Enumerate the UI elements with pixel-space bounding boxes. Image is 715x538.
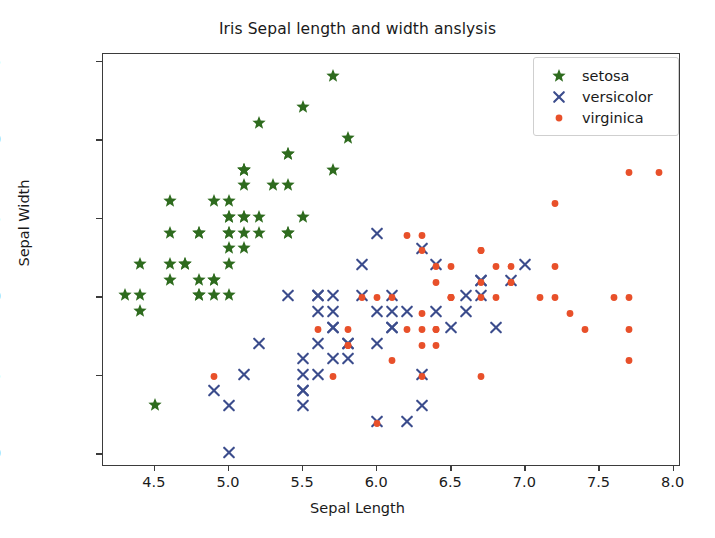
data-point-versicolor xyxy=(370,414,384,433)
y-tick-label: 3.5 xyxy=(0,210,1,226)
data-point-virginica xyxy=(565,304,575,323)
x-tick-label: 7.0 xyxy=(513,474,536,490)
data-point-virginica xyxy=(624,288,634,307)
data-point-versicolor xyxy=(415,398,429,417)
data-point-setosa xyxy=(177,256,193,276)
data-point-virginica xyxy=(535,288,545,307)
legend-entry-setosa[interactable]: setosa xyxy=(534,65,678,86)
data-point-virginica xyxy=(343,335,353,354)
data-point-setosa xyxy=(280,146,296,166)
x-axis-label: Sepal Length xyxy=(0,500,715,516)
data-point-virginica xyxy=(387,351,397,370)
data-point-versicolor xyxy=(385,288,399,307)
y-tick-label: 2.5 xyxy=(0,367,1,383)
data-point-virginica xyxy=(313,319,323,338)
data-point-virginica xyxy=(550,288,560,307)
data-point-virginica xyxy=(387,288,397,307)
data-point-versicolor xyxy=(385,304,399,323)
data-point-virginica xyxy=(446,288,456,307)
legend-entry-versicolor[interactable]: versicolor xyxy=(534,86,678,107)
data-point-virginica xyxy=(357,288,367,307)
data-point-versicolor xyxy=(400,304,414,323)
y-tick-mark xyxy=(96,296,102,297)
x-tick-mark xyxy=(376,466,377,471)
legend: setosaversicolorvirginica xyxy=(533,57,679,136)
data-point-virginica xyxy=(446,288,456,307)
legend-entry-virginica[interactable]: virginica xyxy=(534,107,678,128)
legend-label: virginica xyxy=(582,110,644,126)
data-point-virginica xyxy=(417,319,427,338)
data-point-virginica xyxy=(431,319,441,338)
data-point-setosa xyxy=(221,225,237,245)
data-point-setosa xyxy=(236,209,252,229)
data-point-versicolor xyxy=(415,366,429,385)
x-tick-label: 7.5 xyxy=(587,474,610,490)
data-point-setosa xyxy=(117,287,133,307)
data-point-virginica xyxy=(417,304,427,323)
data-point-virginica xyxy=(402,319,412,338)
data-point-setosa xyxy=(206,287,222,307)
data-point-virginica xyxy=(343,319,353,338)
data-point-versicolor xyxy=(326,351,340,370)
data-point-versicolor xyxy=(429,257,443,276)
data-point-virginica xyxy=(372,288,382,307)
y-axis-label: Sepal Width xyxy=(16,73,32,373)
data-point-versicolor xyxy=(296,398,310,417)
data-point-setosa xyxy=(236,162,252,182)
data-point-setosa xyxy=(280,225,296,245)
data-point-versicolor xyxy=(444,319,458,338)
data-point-versicolor xyxy=(385,319,399,338)
chart-title: Iris Sepal length and width anslysis xyxy=(0,20,715,38)
data-point-versicolor xyxy=(326,319,340,338)
data-point-setosa xyxy=(191,287,207,307)
legend-label: versicolor xyxy=(582,89,653,105)
data-point-setosa xyxy=(191,225,207,245)
x-tick-mark xyxy=(598,466,599,471)
data-point-virginica xyxy=(476,366,486,385)
data-point-virginica xyxy=(417,241,427,260)
data-point-versicolor xyxy=(326,319,340,338)
dot-marker xyxy=(536,113,582,123)
data-point-versicolor xyxy=(341,335,355,354)
data-point-setosa xyxy=(295,209,311,229)
data-point-setosa xyxy=(280,146,296,166)
data-point-setosa xyxy=(325,162,341,182)
data-point-versicolor xyxy=(296,351,310,370)
data-point-setosa xyxy=(280,225,296,245)
data-point-versicolor xyxy=(311,288,325,307)
data-point-versicolor xyxy=(311,335,325,354)
data-point-virginica xyxy=(402,225,412,244)
x-tick-label: 5.0 xyxy=(216,474,239,490)
data-point-virginica xyxy=(417,225,427,244)
data-point-virginica xyxy=(550,257,560,276)
data-point-versicolor xyxy=(370,335,384,354)
data-point-versicolor xyxy=(281,288,295,307)
data-point-virginica xyxy=(624,319,634,338)
data-point-versicolor xyxy=(459,288,473,307)
data-point-virginica xyxy=(476,288,486,307)
data-point-versicolor xyxy=(370,304,384,323)
data-point-setosa xyxy=(325,68,341,88)
data-point-setosa xyxy=(236,225,252,245)
y-tick-mark xyxy=(96,218,102,219)
y-tick-label: 3.0 xyxy=(0,288,1,304)
data-point-setosa xyxy=(221,256,237,276)
data-point-setosa xyxy=(221,193,237,213)
data-point-versicolor xyxy=(459,304,473,323)
data-point-setosa xyxy=(206,193,222,213)
data-point-virginica xyxy=(431,335,441,354)
data-point-setosa xyxy=(221,209,237,229)
data-point-versicolor xyxy=(341,351,355,370)
data-point-setosa xyxy=(132,287,148,307)
x-tick-mark xyxy=(450,466,451,471)
data-point-virginica xyxy=(624,162,634,181)
data-point-virginica xyxy=(431,319,441,338)
data-point-versicolor xyxy=(474,272,488,291)
data-point-virginica xyxy=(209,366,219,385)
x-tick-mark xyxy=(228,466,229,471)
data-point-virginica xyxy=(550,194,560,213)
data-point-setosa xyxy=(221,225,237,245)
x-tick-label: 6.5 xyxy=(439,474,462,490)
data-point-virginica xyxy=(446,257,456,276)
data-point-versicolor xyxy=(222,398,236,417)
